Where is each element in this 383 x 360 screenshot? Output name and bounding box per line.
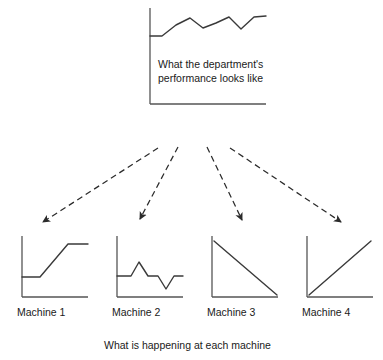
bottom-caption: What is happening at each machine (104, 338, 271, 352)
top-chart-caption-line-2: performance looks like (158, 72, 263, 84)
machine-3-line (214, 241, 277, 295)
arrow-to-machine-2 (140, 147, 178, 219)
machine-4-label: Machine 4 (302, 305, 350, 319)
top-chart-performance-line (150, 16, 266, 36)
machine-1-line (22, 244, 88, 277)
connector-arrows-group (43, 147, 341, 222)
top-chart-caption-line-1: What the department's (158, 58, 263, 70)
machine-2-label: Machine 2 (112, 305, 160, 319)
top-chart-caption: What the department's performance looks … (158, 57, 278, 85)
machine-1-label: Machine 1 (17, 305, 65, 319)
machine-3-chart (212, 236, 278, 297)
machine-2-line (117, 262, 183, 289)
top-chart-group (150, 8, 266, 104)
machine-2-chart (117, 236, 183, 297)
machine-3-label: Machine 3 (207, 305, 255, 319)
machine-4-line (309, 241, 371, 295)
machine-1-chart (22, 236, 88, 297)
arrow-to-machine-3 (207, 147, 242, 220)
machine-4-chart (307, 236, 373, 297)
diagram-root: What the department's performance looks … (0, 0, 383, 360)
arrow-to-machine-4 (230, 148, 341, 222)
arrow-to-machine-1 (43, 148, 158, 222)
